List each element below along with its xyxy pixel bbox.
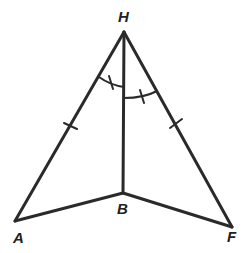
label-A: A (12, 229, 24, 246)
label-B: B (117, 200, 128, 217)
geometry-diagram: H A B F (0, 0, 250, 253)
label-H: H (118, 8, 130, 25)
diagram-svg: H A B F (0, 0, 250, 253)
segment-HB (123, 32, 124, 193)
label-F: F (227, 228, 237, 245)
segment-AB (15, 193, 123, 221)
